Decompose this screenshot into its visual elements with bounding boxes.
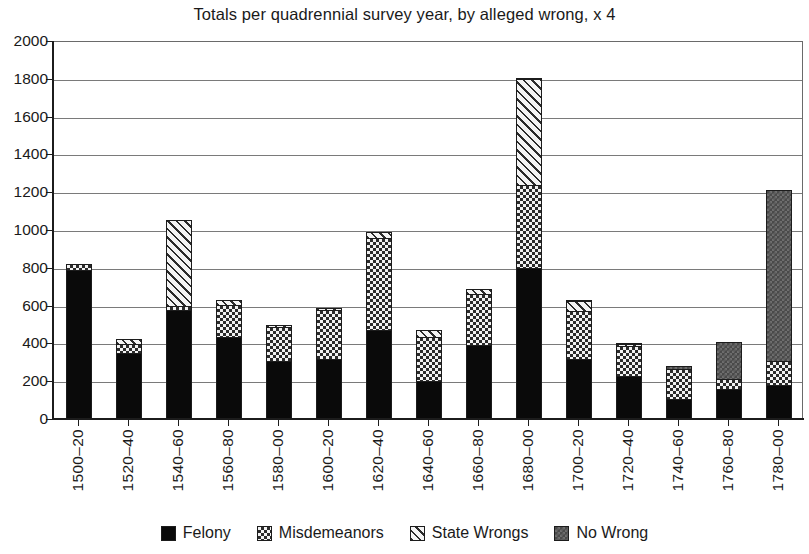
bar-stack[interactable]: [316, 308, 342, 418]
bar-segment-misdemeanors[interactable]: [216, 305, 242, 338]
x-axis-tick-label: 1600–20: [319, 429, 337, 491]
x-axis-tick-mark: [228, 419, 229, 426]
y-axis-line: [52, 41, 54, 420]
x-axis-tick-mark: [778, 419, 779, 426]
chart-root: Totals per quadrennial survey year, by a…: [0, 0, 809, 554]
bar-stack[interactable]: [466, 289, 492, 418]
bar-segment-felony[interactable]: [266, 361, 292, 419]
gridline: [54, 155, 802, 156]
chart-title: Totals per quadrennial survey year, by a…: [0, 5, 809, 24]
legend-label: No Wrong: [576, 524, 648, 542]
gridline: [54, 80, 802, 81]
bar-segment-felony[interactable]: [116, 353, 142, 419]
bar-stack[interactable]: [516, 78, 542, 418]
bar-stack[interactable]: [116, 339, 142, 418]
bar-stack[interactable]: [166, 220, 192, 418]
y-axis-tick-label: 600: [2, 297, 48, 315]
chart-legend: FelonyMisdemeanorsState WrongsNo Wrong: [0, 524, 809, 542]
y-axis-tick-label: 1600: [2, 108, 48, 126]
bar-segment-felony[interactable]: [566, 359, 592, 419]
x-axis-tick-mark: [578, 419, 579, 426]
x-axis-tick-mark: [728, 419, 729, 426]
bar-segment-misdemeanors[interactable]: [516, 185, 542, 269]
x-axis-tick-mark: [478, 419, 479, 426]
bar-segment-felony[interactable]: [766, 385, 792, 419]
y-axis-ticks: 2000180016001400120010008006004002000: [0, 41, 48, 419]
bar-stack[interactable]: [266, 325, 292, 418]
x-axis-ticks: [53, 419, 803, 429]
bar-segment-misdemeanors[interactable]: [566, 311, 592, 360]
x-axis-tick-label: 1640–60: [419, 429, 437, 491]
bar-segment-misdemeanors[interactable]: [366, 238, 392, 332]
x-axis-tick-label: 1680–00: [519, 429, 537, 491]
legend-item-no-wrong[interactable]: No Wrong: [554, 524, 648, 542]
x-axis-tick-mark: [678, 419, 679, 426]
bar-stack[interactable]: [366, 232, 392, 418]
bar-segment-misdemeanors[interactable]: [316, 310, 342, 360]
bar-segment-misdemeanors[interactable]: [266, 327, 292, 362]
y-axis-tick-label: 0: [2, 410, 48, 428]
legend-label: State Wrongs: [432, 524, 529, 542]
bar-stack[interactable]: [566, 300, 592, 418]
bar-segment-felony[interactable]: [466, 345, 492, 419]
bar-segment-felony[interactable]: [666, 399, 692, 419]
legend-item-felony[interactable]: Felony: [161, 524, 231, 542]
y-axis-tick-label: 400: [2, 334, 48, 352]
x-axis-tick-mark: [278, 419, 279, 426]
y-axis-tick-label: 1000: [2, 221, 48, 239]
bar-segment-no-wrong[interactable]: [766, 190, 792, 363]
x-axis-tick-label: 1700–20: [569, 429, 587, 491]
bar-segment-no-wrong[interactable]: [716, 342, 742, 381]
legend-item-misdemeanors[interactable]: Misdemeanors: [257, 524, 384, 542]
x-axis-tick-label: 1500–20: [69, 429, 87, 491]
bar-segment-felony[interactable]: [216, 337, 242, 419]
bar-segment-felony[interactable]: [166, 310, 192, 419]
bar-segment-felony[interactable]: [316, 359, 342, 419]
gridline: [54, 193, 802, 194]
bar-segment-felony[interactable]: [516, 268, 542, 419]
bar-segment-state-wrongs[interactable]: [516, 79, 542, 186]
x-axis-tick-mark: [528, 419, 529, 426]
x-axis-tick-label: 1560–80: [219, 429, 237, 491]
x-axis-tick-mark: [378, 419, 379, 426]
bar-stack[interactable]: [416, 330, 442, 418]
y-axis-tick-label: 1800: [2, 70, 48, 88]
x-axis-tick-mark: [178, 419, 179, 426]
x-axis-tick-label: 1780–00: [769, 429, 787, 491]
legend-item-state-wrongs[interactable]: State Wrongs: [410, 524, 529, 542]
bar-segment-felony[interactable]: [416, 381, 442, 419]
bar-segment-felony[interactable]: [66, 270, 92, 419]
bar-segment-state-wrongs[interactable]: [166, 220, 192, 307]
legend-label: Felony: [183, 524, 231, 542]
bar-stack[interactable]: [716, 342, 742, 418]
plot-area: [53, 41, 803, 419]
bar-stack[interactable]: [66, 264, 92, 418]
bar-segment-misdemeanors[interactable]: [666, 369, 692, 400]
gridline: [54, 118, 802, 119]
bar-segment-felony[interactable]: [366, 330, 392, 419]
y-axis-tick-label: 2000: [2, 32, 48, 50]
bar-segment-misdemeanors[interactable]: [416, 337, 442, 382]
bar-stack[interactable]: [616, 343, 642, 418]
bar-segment-felony[interactable]: [616, 376, 642, 419]
x-axis-tick-mark: [628, 419, 629, 426]
x-axis-tick-label: 1580–00: [269, 429, 287, 491]
bar-stack[interactable]: [666, 366, 692, 418]
bar-segment-misdemeanors[interactable]: [766, 361, 792, 386]
bar-stack[interactable]: [766, 190, 792, 419]
bar-segment-misdemeanors[interactable]: [616, 346, 642, 377]
x-axis-tick-label: 1720–40: [619, 429, 637, 491]
bar-stack[interactable]: [216, 300, 242, 418]
legend-swatch-icon: [554, 526, 569, 541]
x-axis-tick-label: 1520–40: [119, 429, 137, 491]
bar-segment-misdemeanors[interactable]: [466, 294, 492, 346]
x-axis-tick-label: 1660–80: [469, 429, 487, 491]
bar-segment-felony[interactable]: [716, 389, 742, 419]
y-axis-tick-label: 800: [2, 259, 48, 277]
y-axis-tick-label: 200: [2, 372, 48, 390]
legend-swatch-icon: [410, 526, 425, 541]
legend-swatch-icon: [257, 526, 272, 541]
y-axis-tick-label: 1400: [2, 145, 48, 163]
x-axis-tick-mark: [128, 419, 129, 426]
legend-label: Misdemeanors: [279, 524, 384, 542]
